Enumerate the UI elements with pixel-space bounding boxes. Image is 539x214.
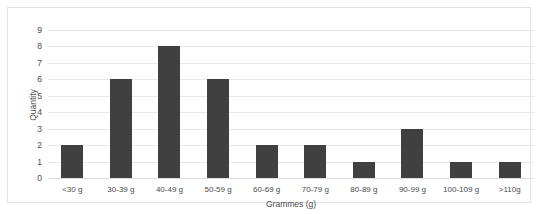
bar-slot: 80-89 g bbox=[340, 30, 389, 178]
x-axis-title: Grammes (g) bbox=[48, 200, 534, 209]
bar[interactable] bbox=[353, 162, 375, 178]
bar[interactable] bbox=[256, 145, 278, 178]
chart-frame: Quantity 9876543210 <30 g30-39 g40-49 g5… bbox=[7, 7, 531, 203]
bar-slot: 50-59 g bbox=[194, 30, 243, 178]
y-axis-tick-label: 4 bbox=[37, 108, 42, 117]
x-axis-tick-label: >110g bbox=[499, 186, 521, 194]
x-axis-tick-label: 40-49 g bbox=[156, 186, 183, 194]
y-axis-tick-label: 0 bbox=[37, 174, 42, 183]
bar[interactable] bbox=[158, 46, 180, 178]
y-axis-tick-label: 6 bbox=[37, 75, 42, 84]
bar[interactable] bbox=[401, 129, 423, 178]
bar[interactable] bbox=[450, 162, 472, 178]
x-axis-tick-label: <30 g bbox=[62, 186, 82, 194]
plot-area: 9876543210 <30 g30-39 g40-49 g50-59 g60-… bbox=[48, 30, 534, 178]
y-axis-tick-label: 3 bbox=[37, 124, 42, 133]
y-axis-title: Quantity bbox=[29, 89, 38, 121]
y-axis-tick-label: 7 bbox=[37, 59, 42, 68]
x-axis-tick-label: 100-109 g bbox=[443, 186, 479, 194]
y-axis-tick-label: 1 bbox=[37, 157, 42, 166]
bar-slot: 40-49 g bbox=[145, 30, 194, 178]
chart-screenshot: Quantity 9876543210 <30 g30-39 g40-49 g5… bbox=[0, 0, 539, 214]
x-axis-tick-label: 80-89 g bbox=[350, 186, 377, 194]
bar[interactable] bbox=[499, 162, 521, 178]
y-axis-tick-label: 8 bbox=[37, 42, 42, 51]
bar[interactable] bbox=[61, 145, 83, 178]
bar[interactable] bbox=[110, 79, 132, 178]
y-axis-tick-label: 2 bbox=[37, 141, 42, 150]
x-axis-tick-label: 60-69 g bbox=[253, 186, 280, 194]
x-axis-tick-label: 90-99 g bbox=[399, 186, 426, 194]
bar-slot: >110g bbox=[485, 30, 534, 178]
y-axis-tick-label: 5 bbox=[37, 92, 42, 101]
gridline: 0 bbox=[48, 178, 534, 179]
bar-slot: 100-109 g bbox=[437, 30, 486, 178]
bar-slot: 70-79 g bbox=[291, 30, 340, 178]
bar-slot: 90-99 g bbox=[388, 30, 437, 178]
bar-slot: 60-69 g bbox=[242, 30, 291, 178]
x-axis-tick-label: 30-39 g bbox=[107, 186, 134, 194]
bar[interactable] bbox=[207, 79, 229, 178]
y-axis-tick-label: 9 bbox=[37, 26, 42, 35]
bar[interactable] bbox=[304, 145, 326, 178]
bar-slot: 30-39 g bbox=[97, 30, 146, 178]
bars-group: <30 g30-39 g40-49 g50-59 g60-69 g70-79 g… bbox=[48, 30, 534, 178]
bar-slot: <30 g bbox=[48, 30, 97, 178]
x-axis-tick-label: 50-59 g bbox=[205, 186, 232, 194]
x-axis-tick-label: 70-79 g bbox=[302, 186, 329, 194]
